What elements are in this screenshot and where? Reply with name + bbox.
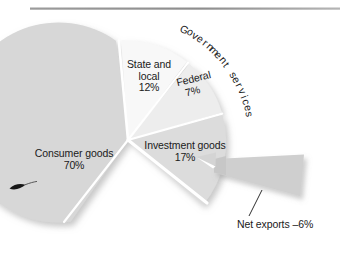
pie-chart-figure: Consumer goods 70% State and local 12% F…: [0, 0, 343, 270]
net-exports-leader-line: [249, 190, 262, 216]
label-investment-goods: Investment goods 17%: [134, 140, 236, 163]
label-investment-goods-value: 17%: [134, 152, 236, 164]
label-consumer-goods-name: Consumer goods: [18, 148, 130, 160]
label-consumer-goods-value: 70%: [18, 160, 130, 172]
top-rule: [30, 8, 340, 10]
label-net-exports: Net exports –6%: [237, 219, 337, 231]
label-net-exports-text: Net exports –6%: [237, 219, 337, 231]
slice-consumer-goods[interactable]: [0, 23, 128, 223]
label-investment-goods-name: Investment goods: [134, 140, 236, 152]
label-state-and-local-name-line1: State and: [116, 59, 182, 71]
label-consumer-goods: Consumer goods 70%: [18, 148, 130, 171]
